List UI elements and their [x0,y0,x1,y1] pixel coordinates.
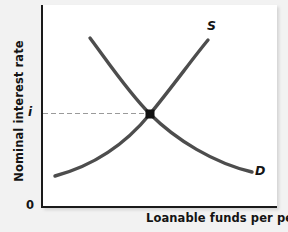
supply-curve-label: S [207,18,216,33]
x-axis-title: Loanable funds per period [146,211,288,225]
interest-rate-tick-label: i [28,105,32,119]
y-axis-title: Nominal interest rate [12,36,26,186]
loanable-funds-market-figure: Nominal interest rate Loanable funds per… [0,0,288,232]
origin-label: 0 [26,198,34,212]
x-axis-line [41,206,277,208]
plot-panel [42,5,277,208]
y-axis-line [41,5,43,208]
demand-curve-label: D [255,163,265,178]
